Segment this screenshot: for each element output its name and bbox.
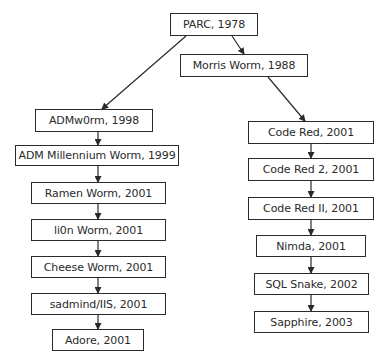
node-nimda: Nimda, 2001 [256, 235, 366, 257]
node-parc: PARC, 1978 [170, 13, 258, 36]
node-sadmind: sadmind/IIS, 2001 [31, 293, 166, 315]
node-label: Sapphire, 2003 [270, 316, 352, 329]
node-label: Cheese Worm, 2001 [44, 261, 153, 274]
node-ramen: Ramen Worm, 2001 [31, 182, 166, 204]
node-label: ADMw0rm, 1998 [49, 114, 139, 127]
node-sqlsnake: SQL Snake, 2002 [254, 273, 369, 295]
node-label: ADM Millennium Worm, 1999 [18, 149, 175, 162]
node-label: Adore, 2001 [65, 334, 131, 347]
arrow-morris-to-codered [268, 77, 305, 121]
node-sapphire: Sapphire, 2003 [254, 311, 369, 333]
node-label: Code Red, 2001 [268, 126, 354, 139]
node-label: li0n Worm, 2001 [54, 224, 143, 237]
node-coderedii: Code Red II, 2001 [248, 197, 374, 220]
node-label: Ramen Worm, 2001 [45, 187, 153, 200]
node-label: sadmind/IIS, 2001 [50, 298, 148, 311]
arrow-parc-to-admw0rm [102, 36, 186, 109]
node-codered2: Code Red 2, 2001 [248, 158, 374, 181]
node-codered: Code Red, 2001 [248, 121, 374, 144]
node-label: Morris Worm, 1988 [193, 59, 296, 72]
node-adore: Adore, 2001 [52, 329, 144, 351]
node-morris: Morris Worm, 1988 [180, 54, 308, 77]
node-label: Nimda, 2001 [276, 240, 346, 253]
node-cheese: Cheese Worm, 2001 [31, 256, 166, 278]
node-label: Code Red II, 2001 [263, 202, 359, 215]
node-label: Code Red 2, 2001 [263, 163, 359, 176]
node-label: SQL Snake, 2002 [265, 278, 357, 291]
node-lion: li0n Worm, 2001 [31, 219, 166, 241]
node-label: PARC, 1978 [183, 18, 245, 31]
node-admmill: ADM Millennium Worm, 1999 [15, 145, 179, 166]
arrow-parc-to-morris [232, 36, 244, 54]
node-admw0rm: ADMw0rm, 1998 [35, 109, 153, 132]
